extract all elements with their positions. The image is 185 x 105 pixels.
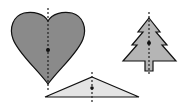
heart-shape — [11, 8, 84, 90]
symmetry-diagram — [0, 0, 185, 105]
tree-center-dot — [147, 41, 151, 45]
triangle-center-dot — [90, 86, 94, 90]
heart-center-dot — [46, 48, 50, 52]
tree-shape — [123, 12, 176, 75]
triangle-shape — [45, 72, 139, 103]
